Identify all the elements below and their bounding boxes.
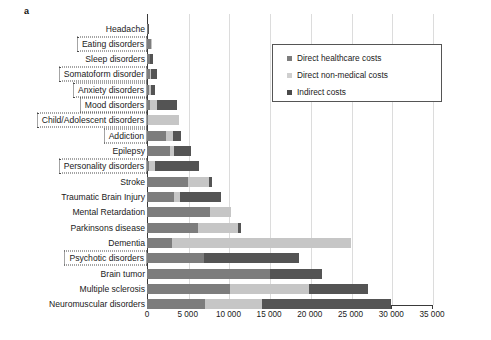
legend-label-direct-healthcare: Direct healthcare costs <box>297 53 381 63</box>
legend-label-indirect: Indirect costs <box>297 87 346 97</box>
legend-swatch-icon-indirect <box>287 90 292 95</box>
legend-swatch-icon-direct-healthcare <box>287 56 292 61</box>
bar-segment-indirect <box>262 299 391 309</box>
stacked-bar <box>147 299 391 309</box>
bar-segment-direct-non-medical <box>205 299 262 309</box>
bar-row: Neuromuscular disorders <box>0 290 491 319</box>
bar-row-label: Neuromuscular disorders <box>49 299 145 310</box>
legend-label-direct-non-medical: Direct non-medical costs <box>297 70 388 80</box>
legend-item-direct-non-medical: Direct non-medical costs <box>287 70 388 80</box>
legend-item-direct-healthcare: Direct healthcare costs <box>287 53 381 63</box>
legend: Direct healthcare costs Direct non-medic… <box>272 44 442 102</box>
bar-segment-direct-healthcare <box>147 299 205 309</box>
cost-of-brain-disorders-chart: a 05 00010 00015 00020 00025 00030 00035… <box>0 0 491 340</box>
legend-item-indirect: Indirect costs <box>287 87 346 97</box>
legend-swatch-icon-direct-non-medical <box>287 73 292 78</box>
